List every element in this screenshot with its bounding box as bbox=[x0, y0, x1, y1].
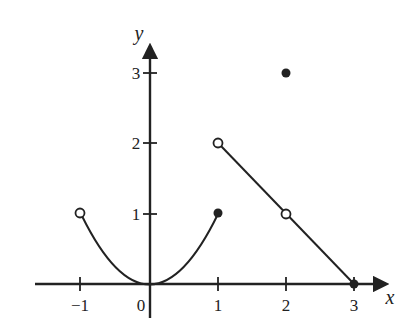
open-point-2-1 bbox=[282, 210, 291, 219]
axes bbox=[35, 46, 386, 318]
x-tick-label: 3 bbox=[350, 296, 359, 315]
y-axis-label: y bbox=[133, 22, 144, 45]
x-tick-label: 0 bbox=[137, 296, 146, 315]
y-tick-labels: 1 2 3 bbox=[132, 64, 141, 224]
points bbox=[76, 69, 359, 289]
function-graph: −1 0 1 2 3 1 2 3 x y bbox=[0, 0, 417, 336]
x-tick-label: 1 bbox=[214, 296, 223, 315]
x-tick-labels: −1 0 1 2 3 bbox=[71, 296, 358, 315]
filled-point-1-1 bbox=[214, 209, 223, 218]
filled-point-3-0 bbox=[350, 280, 359, 289]
y-tick-label: 1 bbox=[132, 205, 141, 224]
y-tick-label: 3 bbox=[132, 64, 141, 83]
open-point-1-2 bbox=[214, 139, 223, 148]
y-tick-label: 2 bbox=[132, 134, 141, 153]
x-tick-label: −1 bbox=[71, 296, 89, 315]
x-axis-label: x bbox=[385, 286, 395, 308]
x-tick-label: 2 bbox=[282, 296, 291, 315]
filled-point-2-3 bbox=[282, 69, 291, 78]
open-point-neg1-1 bbox=[76, 209, 85, 218]
